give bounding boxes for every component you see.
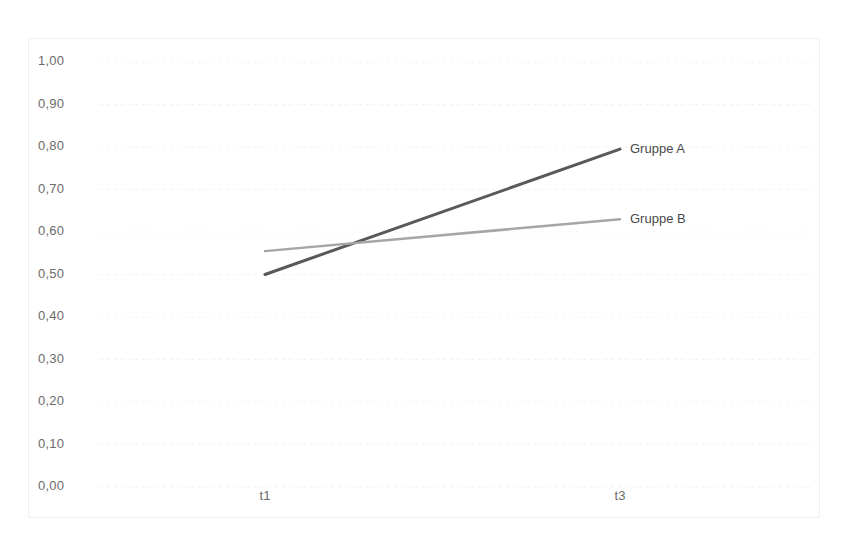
y-tick-label: 0,10: [38, 436, 64, 451]
y-tick-label: 0,80: [38, 138, 64, 153]
chart-canvas: [0, 0, 850, 560]
y-tick-label: 0,30: [38, 351, 64, 366]
y-tick-label: 0,60: [38, 223, 64, 238]
series-line-1: [265, 149, 620, 274]
y-tick-label: 0,40: [38, 308, 64, 323]
x-tick-label: t1: [225, 488, 305, 503]
y-tick-label: 0,20: [38, 393, 64, 408]
series-label-1: Gruppe A: [630, 141, 685, 156]
data-series-lines: [265, 149, 620, 274]
series-line-2: [265, 219, 620, 251]
x-tick-label: t3: [580, 488, 660, 503]
line-chart: 1,000,900,800,700,600,500,400,300,200,10…: [0, 0, 850, 560]
gridlines: [100, 62, 812, 487]
y-tick-label: 0,70: [38, 181, 64, 196]
series-label-2: Gruppe B: [630, 211, 686, 226]
y-tick-label: 1,00: [38, 53, 64, 68]
y-tick-label: 0,50: [38, 266, 64, 281]
y-tick-label: 0,00: [38, 478, 64, 493]
y-tick-label: 0,90: [38, 96, 64, 111]
